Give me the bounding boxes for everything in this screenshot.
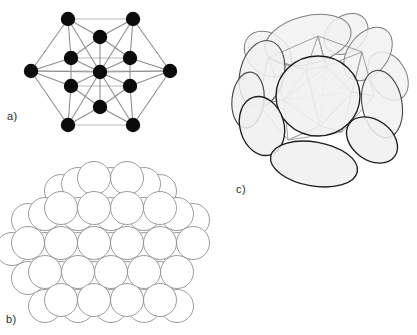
panel-c-sphere-polyhedron	[222, 0, 417, 210]
panel-b-label: b)	[6, 313, 17, 325]
panel-a-label: a)	[7, 110, 18, 122]
atom-node	[93, 100, 107, 114]
atom-node	[93, 30, 107, 44]
atom-node	[163, 64, 177, 78]
atom-node	[64, 51, 78, 65]
panel-c-label: c)	[236, 183, 246, 195]
panel-a-atoms	[24, 12, 177, 132]
atom-node	[64, 79, 78, 93]
panel-b-spheres	[0, 162, 210, 323]
atom-node-center	[93, 65, 107, 79]
panel-c-svg	[222, 0, 417, 210]
atom-node	[126, 12, 140, 26]
panel-b-hard-sphere-packing	[0, 148, 210, 335]
panel-b-svg	[0, 148, 210, 335]
panel-a-ball-and-stick	[0, 0, 210, 145]
atom-node	[61, 118, 75, 132]
atom-node	[24, 64, 38, 78]
atom-node	[123, 79, 137, 93]
atom-node	[123, 51, 137, 65]
atom-node	[61, 12, 75, 26]
atom-node	[126, 118, 140, 132]
panel-a-svg	[0, 0, 210, 145]
figure-root: a) b) c)	[0, 0, 417, 335]
